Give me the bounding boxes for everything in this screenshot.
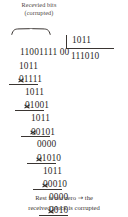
divisor-quotient-column: 1011 111010 [66, 35, 128, 62]
caption-line-1: Recevied bits [0, 1, 78, 9]
received-bits-caption: Recevied bits (corrupted) [0, 1, 78, 17]
conclusion-line-2: received block is corrupted [0, 203, 128, 212]
divisor-value: 1011 [72, 35, 91, 45]
curly-brace-icon [11, 28, 51, 35]
divisor-box: 1011 [66, 35, 114, 49]
caption-line-2: (corrupted) [0, 9, 78, 17]
conclusion-line-1-post: the [83, 194, 93, 201]
conclusion-line-1: Rest is not zero → the [0, 193, 128, 203]
conclusion-line-1-pre: Rest is not zero [35, 194, 78, 201]
quotient-value: 111010 [66, 51, 128, 63]
conclusion-text: Rest is not zero → the received block is… [0, 193, 128, 212]
